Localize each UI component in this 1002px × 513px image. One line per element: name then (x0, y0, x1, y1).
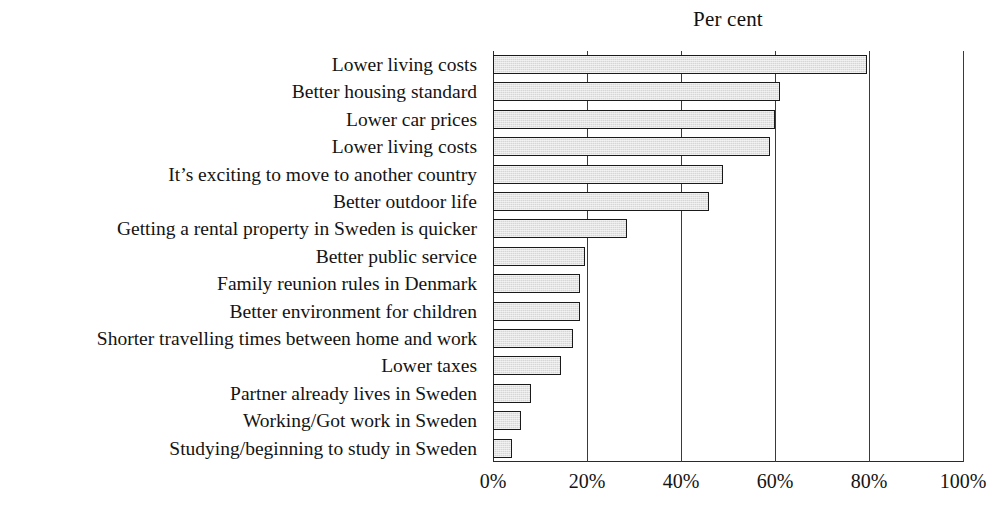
bar-row (493, 215, 963, 242)
bar-row (493, 188, 963, 215)
category-label: Lower living costs (0, 133, 486, 160)
bar-row (493, 407, 963, 434)
bar-row (493, 352, 963, 379)
category-label: Lower taxes (0, 352, 486, 379)
plot-area (493, 51, 963, 462)
category-label: Family reunion rules in Denmark (0, 270, 486, 297)
bar-row (493, 298, 963, 325)
bar[interactable] (493, 55, 867, 74)
bar[interactable] (493, 82, 780, 101)
category-label: Better outdoor life (0, 188, 486, 215)
bar[interactable] (493, 274, 580, 293)
category-axis-labels: Lower living costsBetter housing standar… (0, 51, 486, 462)
bar-row (493, 106, 963, 133)
bar[interactable] (493, 137, 770, 156)
chart-title: Per cent (493, 6, 963, 32)
x-axis-tick-labels: 0%20%40%60%80%100% (0, 466, 1002, 500)
x-tick-label: 100% (903, 466, 1002, 496)
bar[interactable] (493, 384, 531, 403)
category-label: Lower living costs (0, 51, 486, 78)
category-label: Better environment for children (0, 298, 486, 325)
bar[interactable] (493, 439, 512, 458)
bar[interactable] (493, 247, 585, 266)
category-label: Better housing standard (0, 78, 486, 105)
bar-row (493, 133, 963, 160)
bar-row (493, 51, 963, 78)
bar[interactable] (493, 192, 709, 211)
category-label: Better public service (0, 243, 486, 270)
category-label: Studying/beginning to study in Sweden (0, 435, 486, 462)
bar-row (493, 325, 963, 352)
gridline-100pct (963, 51, 964, 462)
bar-row (493, 161, 963, 188)
bar-row (493, 435, 963, 462)
bar-row (493, 380, 963, 407)
bar[interactable] (493, 356, 561, 375)
bar[interactable] (493, 219, 627, 238)
category-label: It’s exciting to move to another country (0, 161, 486, 188)
bar-row (493, 270, 963, 297)
category-label: Working/Got work in Sweden (0, 407, 486, 434)
category-label: Partner already lives in Sweden (0, 380, 486, 407)
bar[interactable] (493, 165, 723, 184)
bar-chart: Per cent Lower living costsBetter housin… (0, 0, 1002, 513)
bar[interactable] (493, 110, 775, 129)
category-label: Shorter travelling times between home an… (0, 325, 486, 352)
bar-row (493, 243, 963, 270)
bar[interactable] (493, 302, 580, 321)
bar[interactable] (493, 411, 521, 430)
bar[interactable] (493, 329, 573, 348)
bar-row (493, 78, 963, 105)
category-label: Lower car prices (0, 106, 486, 133)
category-label: Getting a rental property in Sweden is q… (0, 215, 486, 242)
